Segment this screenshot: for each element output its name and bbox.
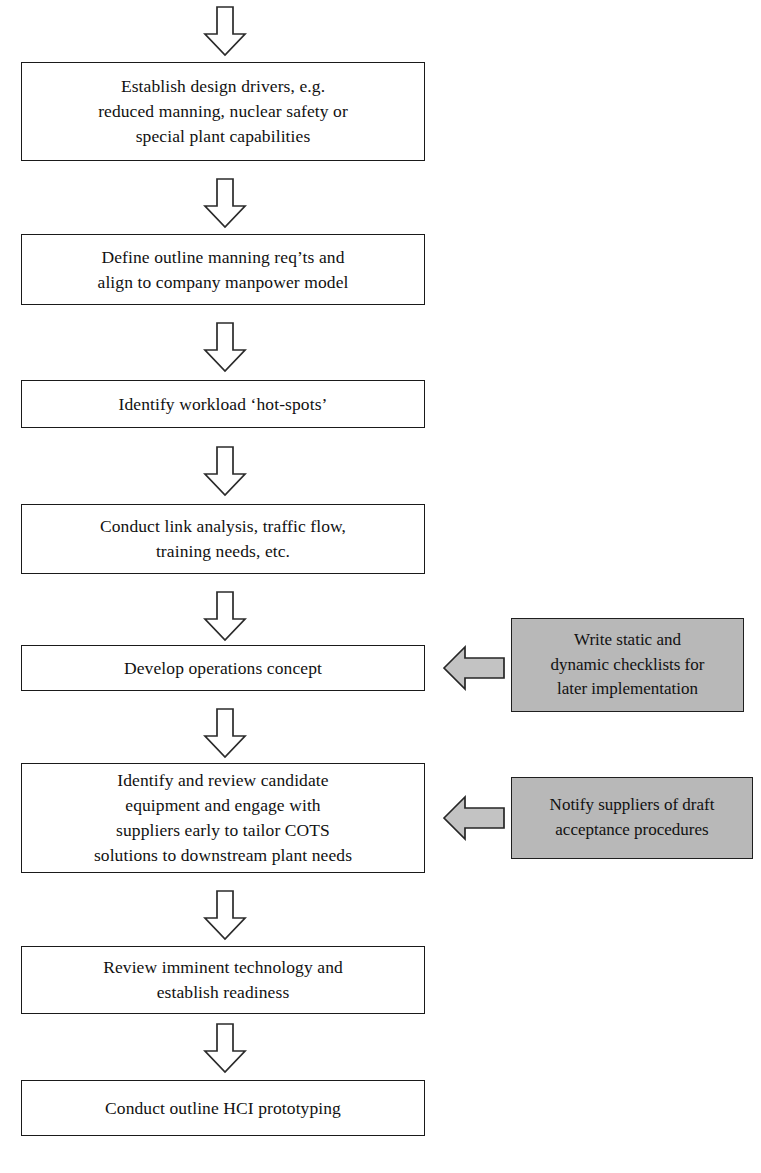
process-node-conduct-link-analysis: Conduct link analysis, traffic flow, tra…: [21, 504, 425, 574]
process-node-identify-review-candidate-equipment: Identify and review candidate equipment …: [21, 763, 425, 873]
process-node-identify-workload-hotspots: Identify workload ‘hot-spots’: [21, 380, 425, 428]
flowchart-canvas: Establish design drivers, e.g. reduced m…: [0, 0, 761, 1173]
arrow-down-to-review-imminent-technology: [204, 890, 246, 940]
process-node-define-outline-manning: Define outline manning req’ts and align …: [21, 234, 425, 305]
arrow-left-from-write-checklists-note: [443, 639, 505, 697]
arrow-left-from-notify-suppliers-note: [443, 789, 505, 847]
process-node-label: Conduct link analysis, traffic flow, tra…: [22, 514, 424, 564]
annotation-note-label: Write static and dynamic checklists for …: [512, 628, 743, 702]
process-node-develop-operations-concept: Develop operations concept: [21, 645, 425, 691]
annotation-note-label: Notify suppliers of draft acceptance pro…: [512, 793, 752, 842]
arrow-down-to-define-outline-manning: [204, 178, 246, 228]
process-node-label: Establish design drivers, e.g. reduced m…: [22, 74, 424, 149]
process-node-review-imminent-technology: Review imminent technology and establish…: [21, 946, 425, 1014]
process-node-label: Conduct outline HCI prototyping: [22, 1096, 424, 1121]
arrow-down-to-conduct-link-analysis: [204, 446, 246, 496]
arrow-down-to-identify-review-candidate-equipment: [204, 708, 246, 758]
annotation-note-notify-suppliers: Notify suppliers of draft acceptance pro…: [511, 777, 753, 859]
process-node-label: Develop operations concept: [22, 656, 424, 681]
arrow-down-into-establish-design-drivers: [204, 6, 246, 56]
arrow-down-to-conduct-outline-hci-prototyping: [204, 1023, 246, 1073]
process-node-label: Define outline manning req’ts and align …: [22, 245, 424, 295]
process-node-conduct-outline-hci-prototyping: Conduct outline HCI prototyping: [21, 1080, 425, 1136]
annotation-note-write-checklists: Write static and dynamic checklists for …: [511, 618, 744, 712]
process-node-label: Identify and review candidate equipment …: [22, 768, 424, 867]
arrow-down-to-develop-operations-concept: [204, 591, 246, 641]
process-node-establish-design-drivers: Establish design drivers, e.g. reduced m…: [21, 62, 425, 161]
process-node-label: Review imminent technology and establish…: [22, 955, 424, 1005]
process-node-label: Identify workload ‘hot-spots’: [22, 392, 424, 417]
arrow-down-to-identify-workload-hotspots: [204, 322, 246, 372]
